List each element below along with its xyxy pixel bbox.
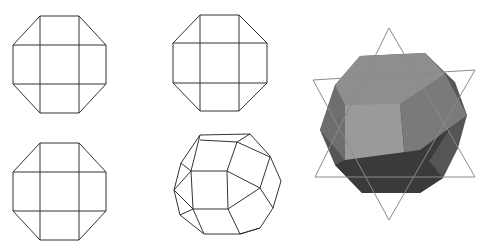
front-view [13,16,106,113]
side-view [173,15,267,111]
top-view [13,143,106,240]
shaded-render [313,28,475,220]
perspective-wireframe [174,134,281,234]
figure-canvas [0,0,484,249]
